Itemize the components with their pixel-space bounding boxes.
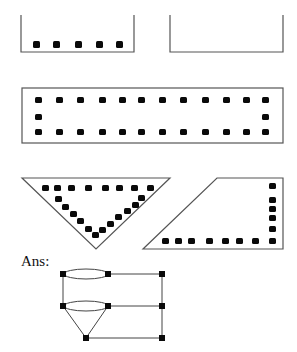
answer-label: Ans: [21,253,49,270]
open-box-right [170,15,283,52]
puzzle-diagram [0,0,297,352]
answer-graph [63,269,162,338]
